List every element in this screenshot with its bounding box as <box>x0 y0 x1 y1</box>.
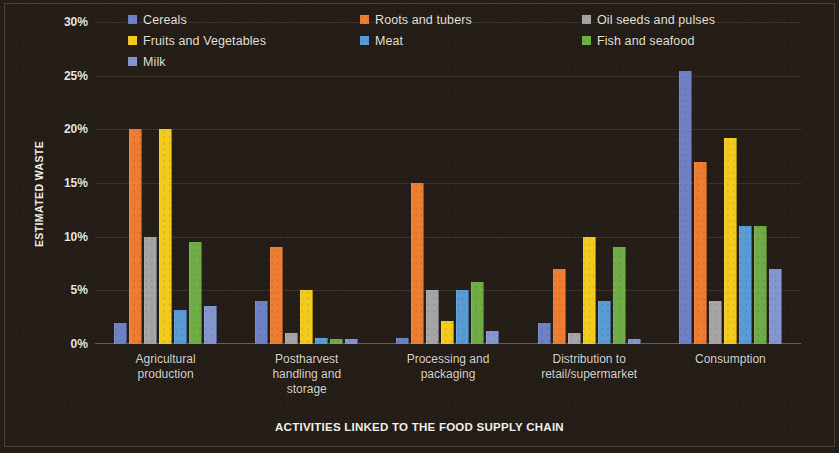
bar[interactable] <box>709 301 722 344</box>
x-axis-category-label-line: Postharvest <box>236 352 377 367</box>
bar[interactable] <box>456 290 469 344</box>
legend-swatch-icon <box>128 36 137 45</box>
chart-legend: CerealsRoots and tubersOil seeds and pul… <box>128 9 788 72</box>
legend-label: Milk <box>143 55 166 69</box>
legend-label: Cereals <box>143 13 187 27</box>
bar[interactable] <box>426 290 439 344</box>
bar[interactable] <box>285 333 298 344</box>
legend-swatch-icon <box>360 36 369 45</box>
x-axis-category-label: Distribution toretail/supermarket <box>519 352 660 382</box>
bar[interactable] <box>270 247 283 344</box>
y-axis-tick-label: 5% <box>71 283 88 297</box>
bar[interactable] <box>471 282 484 344</box>
legend-item-milk[interactable]: Milk <box>128 55 360 69</box>
bar[interactable] <box>739 226 752 344</box>
x-axis-category-label-line: storage <box>236 382 377 397</box>
x-axis-category-label-line: production <box>95 367 236 382</box>
bar[interactable] <box>300 290 313 344</box>
bar[interactable] <box>613 247 626 344</box>
legend-item-meat[interactable]: Meat <box>360 34 582 48</box>
x-axis-category-label-line: Processing and <box>377 352 518 367</box>
x-axis-title: ACTIVITIES LINKED TO THE FOOD SUPPLY CHA… <box>0 421 839 433</box>
bar[interactable] <box>568 333 581 344</box>
y-axis-title: ESTIMATED WASTE <box>33 119 45 269</box>
x-axis-category-label: Consumption <box>660 352 801 367</box>
bar[interactable] <box>679 71 692 344</box>
bar[interactable] <box>441 321 454 344</box>
legend-label: Fish and seafood <box>597 34 695 48</box>
bar[interactable] <box>204 306 217 344</box>
x-axis-category-label: Postharvesthandling andstorage <box>236 352 377 397</box>
bar[interactable] <box>769 269 782 344</box>
y-axis-tick-label: 15% <box>64 176 88 190</box>
bar[interactable] <box>189 242 202 344</box>
legend-label: Fruits and Vegetables <box>143 34 266 48</box>
x-axis-category-label-line: Consumption <box>660 352 801 367</box>
legend-item-oil-seeds-and-pulses[interactable]: Oil seeds and pulses <box>582 13 788 27</box>
bar[interactable] <box>396 338 409 344</box>
bar-chart: CerealsRoots and tubersOil seeds and pul… <box>0 0 839 453</box>
x-axis-category-label-line: packaging <box>377 367 518 382</box>
legend-label: Oil seeds and pulses <box>597 13 715 27</box>
bar[interactable] <box>159 129 172 344</box>
bar[interactable] <box>724 138 737 344</box>
legend-item-fruits-and-vegetables[interactable]: Fruits and Vegetables <box>128 34 360 48</box>
x-axis-category-label-line: Distribution to <box>519 352 660 367</box>
bar[interactable] <box>754 226 767 344</box>
x-axis-category-label-line: Agricultural <box>95 352 236 367</box>
legend-item-fish-and-seafood[interactable]: Fish and seafood <box>582 34 788 48</box>
legend-label: Meat <box>375 34 403 48</box>
bar[interactable] <box>598 301 611 344</box>
bar[interactable] <box>330 339 343 344</box>
y-axis-tick-label: 10% <box>64 230 88 244</box>
bar[interactable] <box>628 339 641 344</box>
bar[interactable] <box>411 183 424 344</box>
bar[interactable] <box>174 310 187 344</box>
y-axis-tick-label: 30% <box>64 15 88 29</box>
y-axis-tick-label: 20% <box>64 122 88 136</box>
x-axis-category-label-line: handling and <box>236 367 377 382</box>
legend-swatch-icon <box>582 15 591 24</box>
bar[interactable] <box>538 323 551 344</box>
bar[interactable] <box>486 331 499 344</box>
y-axis-tick-label: 25% <box>64 69 88 83</box>
bar[interactable] <box>583 237 596 344</box>
x-axis-category-label: Agriculturalproduction <box>95 352 236 382</box>
bar[interactable] <box>315 338 328 344</box>
bar[interactable] <box>129 129 142 344</box>
y-axis-tick-label: 0% <box>71 337 88 351</box>
bar[interactable] <box>144 237 157 344</box>
x-axis-category-label-line: retail/supermarket <box>519 367 660 382</box>
bar[interactable] <box>114 323 127 344</box>
bar[interactable] <box>694 162 707 344</box>
bar[interactable] <box>345 339 358 344</box>
legend-swatch-icon <box>128 15 137 24</box>
bar[interactable] <box>255 301 268 344</box>
legend-swatch-icon <box>128 57 137 66</box>
legend-swatch-icon <box>582 36 591 45</box>
legend-item-roots-and-tubers[interactable]: Roots and tubers <box>360 13 582 27</box>
x-axis-category-label: Processing andpackaging <box>377 352 518 382</box>
legend-swatch-icon <box>360 15 369 24</box>
bar[interactable] <box>553 269 566 344</box>
legend-label: Roots and tubers <box>375 13 472 27</box>
legend-item-cereals[interactable]: Cereals <box>128 13 360 27</box>
